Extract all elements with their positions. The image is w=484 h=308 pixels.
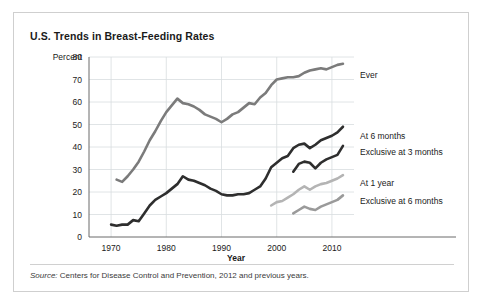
series-legend-labels: EverAt 6 monthsExclusive at 3 monthsAt 1… bbox=[360, 70, 443, 206]
x-axis-ticks: 19701980199020002010 bbox=[102, 243, 342, 253]
page-title: U.S. Trends in Breast-Feeding Rates bbox=[30, 30, 214, 42]
y-tick-label: 40 bbox=[73, 142, 83, 152]
chart-plot-area: 01020304050607080 19701980199020002010 E… bbox=[14, 51, 470, 266]
series-line bbox=[111, 127, 343, 226]
data-series bbox=[111, 64, 343, 226]
series-line bbox=[293, 146, 343, 172]
source-label: Source: bbox=[30, 271, 58, 280]
x-tick-label: 1980 bbox=[157, 243, 176, 253]
series-label: Ever bbox=[360, 70, 378, 80]
figure-card: U.S. Trends in Breast-Feeding Rates 0102… bbox=[13, 12, 469, 292]
series-label: At 1 year bbox=[360, 178, 394, 188]
series-line bbox=[117, 64, 343, 182]
series-line bbox=[293, 195, 343, 213]
x-tick-label: 2000 bbox=[267, 243, 286, 253]
x-tick-label: 1990 bbox=[212, 243, 231, 253]
y-tick-label: 10 bbox=[73, 210, 83, 220]
y-axis-title: Percent bbox=[53, 52, 83, 62]
y-tick-label: 60 bbox=[73, 97, 83, 107]
series-label: Exclusive at 6 months bbox=[360, 196, 443, 206]
x-axis-title: Year bbox=[227, 253, 246, 263]
source-text: Centers for Disease Control and Preventi… bbox=[58, 271, 309, 280]
source-note: Source: Centers for Disease Control and … bbox=[30, 271, 309, 280]
line-chart: 01020304050607080 19701980199020002010 E… bbox=[14, 51, 470, 266]
series-label: At 6 months bbox=[360, 131, 405, 141]
x-tick-label: 1970 bbox=[102, 243, 121, 253]
y-tick-label: 70 bbox=[73, 75, 83, 85]
x-tick-label: 2010 bbox=[322, 243, 341, 253]
series-label: Exclusive at 3 months bbox=[360, 147, 443, 157]
y-tick-label: 30 bbox=[73, 165, 83, 175]
y-tick-label: 0 bbox=[77, 232, 82, 242]
source-divider bbox=[30, 264, 454, 265]
y-tick-label: 20 bbox=[73, 187, 83, 197]
y-tick-label: 50 bbox=[73, 120, 83, 130]
y-axis-ticks: 01020304050607080 bbox=[73, 52, 83, 242]
